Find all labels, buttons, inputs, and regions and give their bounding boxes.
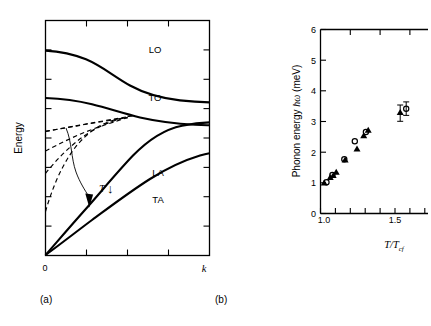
data-point-triangle [333,169,340,175]
panel-b-ytick-4: 4 [311,86,316,96]
branch-curve-TO [46,98,210,125]
panel-a-y-ticks-right [204,50,210,226]
data-point-triangle [360,132,367,138]
panel-b-ytick-5: 5 [311,56,316,66]
panel-b-ytick-3: 3 [311,117,316,127]
panel-a-x-ticks [87,250,169,256]
panel-b-ytick-0: 0 [311,209,316,219]
panel-a-plot-frame [46,21,210,256]
branch-label-TA: TA [152,194,164,205]
panel-a-x-axis-label: k [202,263,207,274]
soft-mode-curve-3 [46,118,128,174]
panel-b-y-axis-label-prefix: Phonon energy [291,107,302,178]
panel-b-y-ticks [321,30,327,214]
soft-mode-curve-1b [46,117,128,131]
panel-b-ytick-2: 2 [311,148,316,158]
branch-label-LO: LO [149,44,162,55]
temperature-annotation-arrow: ↓ [107,181,114,196]
panel-b-y-axis-label-units: (meV) [291,65,302,95]
data-point-circle [352,139,357,144]
panel-a-x-ticks-top [87,21,169,27]
data-point-triangle [354,146,361,152]
panel-b-caption: (b) [215,294,227,305]
branch-curve-TA [46,153,210,255]
panel-a-x-origin-label: 0 [42,263,47,273]
panel-b-x-ticks-top [350,30,410,36]
panel-b-x-axis-label-sub: cf [399,245,405,253]
branch-curve-LO [46,51,210,103]
panel-b-y-axis-label-symbol: ħω [291,95,302,107]
branch-label-LA: LA [152,167,164,178]
panel-b: 0 1 2 3 4 5 6 [215,25,428,305]
panel-b-y-axis-label: Phonon energy ħω (meV) [291,65,302,178]
panel-b-xtick-1p5: 1.5 [389,215,402,225]
panel-b-xtick-1p0: 1.0 [318,215,331,225]
panel-a-caption: (a) [40,294,52,305]
panel-b-ytick-1: 1 [311,178,316,188]
panel-b-ytick-6: 6 [311,25,316,35]
panel-a-y-axis-label: Energy [13,122,24,154]
panel-b-x-axis-label: T/Tcf [384,239,405,253]
panel-a-y-ticks [46,50,52,226]
panel-b-x-axis-label-main: T/T [384,239,400,250]
panel-a: LO TO LA TA T ↓ Energy 0 k (a) [13,21,210,306]
series-filled-triangles [321,109,404,185]
branch-label-TO: TO [148,92,161,103]
panel-b-x-ticks [321,208,425,214]
figure-svg: LO TO LA TA T ↓ Energy 0 k (a) [0,0,431,326]
figure-root: LO TO LA TA T ↓ Energy 0 k (a) [0,0,431,326]
